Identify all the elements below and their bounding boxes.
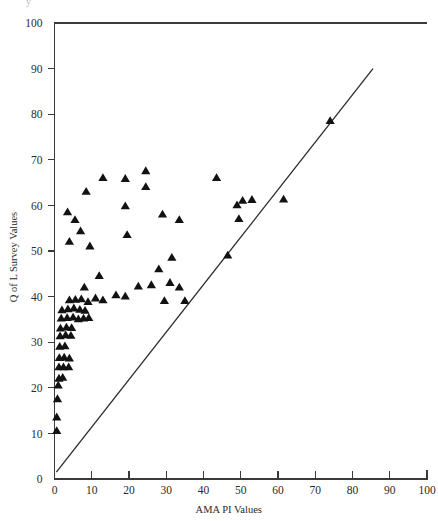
y-tick-label: 0 <box>37 473 43 485</box>
data-point-marker <box>98 295 107 303</box>
axis-labels-group: AMA PI ValuesQ of L Survey Values <box>8 212 262 515</box>
x-tick-label: 60 <box>272 484 284 496</box>
data-point-marker <box>95 271 104 279</box>
x-tick-label: 100 <box>418 484 436 496</box>
x-tick-label: 40 <box>198 484 210 496</box>
data-point-marker <box>98 173 107 181</box>
y-tick-label: 40 <box>31 291 43 303</box>
scatter-plot-figure: y 01020304050607080901000102030405060708… <box>0 0 438 521</box>
y-tick-label: 30 <box>31 336 43 348</box>
y-tick-label: 100 <box>25 17 43 29</box>
data-point-marker <box>180 296 189 304</box>
data-point-marker <box>234 214 243 222</box>
x-tick-label: 50 <box>235 484 247 496</box>
y-axis-title: Q of L Survey Values <box>8 212 19 302</box>
data-point-marker <box>121 201 130 209</box>
y-tick-label: 10 <box>31 428 43 440</box>
data-point-marker <box>167 253 176 261</box>
y-tick-label: 90 <box>31 63 43 75</box>
data-point-marker <box>175 215 184 223</box>
data-point-marker <box>76 227 85 235</box>
data-point-marker <box>121 174 130 182</box>
data-point-marker <box>165 278 174 286</box>
data-point-marker <box>279 195 288 203</box>
y-tick-label: 20 <box>31 382 43 394</box>
data-point-marker <box>80 283 89 291</box>
x-tick-label: 90 <box>384 484 396 496</box>
data-point-marker <box>160 296 169 304</box>
data-point-marker <box>141 182 150 190</box>
reference-line <box>56 69 373 473</box>
data-point-marker <box>147 280 156 288</box>
x-tick-label: 20 <box>123 484 135 496</box>
data-point-marker <box>52 413 61 421</box>
data-point-marker <box>82 187 91 195</box>
data-point-marker <box>123 230 132 238</box>
data-point-marker <box>121 292 130 300</box>
data-point-marker <box>212 173 221 181</box>
x-tick-label: 30 <box>161 484 173 496</box>
y-tick-label: 80 <box>31 108 43 120</box>
axis-frame <box>55 23 428 479</box>
data-point-marker <box>85 242 94 250</box>
data-point-marker <box>158 210 167 218</box>
data-point-marker <box>63 207 72 215</box>
data-point-marker <box>91 294 100 302</box>
y-tick-label: 60 <box>31 200 43 212</box>
top-edge-text-fragment: y <box>26 0 32 7</box>
x-axis-title: AMA PI Values <box>196 504 262 515</box>
x-tick-label: 0 <box>52 484 58 496</box>
data-points-group <box>52 116 335 434</box>
data-point-marker <box>134 282 143 290</box>
data-point-marker <box>154 264 163 272</box>
x-tick-label: 10 <box>86 484 98 496</box>
y-tick-label: 70 <box>31 154 43 166</box>
data-point-marker <box>223 251 232 259</box>
data-point-marker <box>77 295 86 303</box>
y-tick-label: 50 <box>31 245 43 257</box>
x-tick-label: 80 <box>347 484 359 496</box>
data-point-marker <box>111 290 120 298</box>
plot-canvas: 0102030405060708090100010203040506070809… <box>0 0 438 521</box>
axes-group <box>55 23 428 479</box>
data-point-marker <box>141 166 150 174</box>
data-point-marker <box>238 196 247 204</box>
x-tick-label: 70 <box>310 484 322 496</box>
data-point-marker <box>52 426 61 434</box>
data-point-marker <box>247 195 256 203</box>
identity-reference-line <box>56 69 373 473</box>
data-point-marker <box>175 283 184 291</box>
data-point-marker <box>70 215 79 223</box>
data-point-marker <box>65 237 74 245</box>
